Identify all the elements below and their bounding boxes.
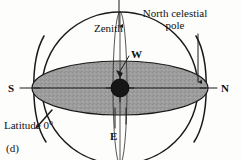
east-label: E (110, 130, 117, 142)
zenith-label: Zenith (94, 22, 123, 34)
south-label: S (8, 82, 14, 94)
diagram-canvas: Zenith North celestial pole W E S N Lati… (0, 0, 241, 160)
north-celestial-pole-label-line2: pole (166, 19, 185, 31)
north-label: N (221, 82, 229, 94)
west-label: W (131, 48, 142, 60)
latitude-label: Latitude 0° (4, 119, 53, 131)
north-celestial-pole-label-line1: North celestial (143, 7, 207, 19)
figure-caption: (d) (6, 142, 19, 155)
observer-marker (111, 79, 129, 97)
celestial-sphere-diagram: Zenith North celestial pole W E S N Lati… (0, 0, 241, 160)
